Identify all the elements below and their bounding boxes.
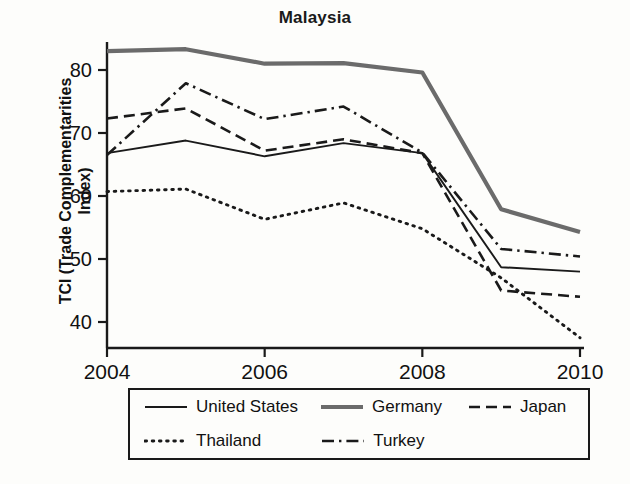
legend-item[interactable]: Thailand <box>144 431 261 451</box>
legend-swatch <box>144 400 188 414</box>
legend-row: United StatesGermanyJapan <box>130 390 588 424</box>
x-tick-label: 2006 <box>241 360 288 383</box>
axis-tick-labels: 40506070802004200620082010 <box>70 59 604 383</box>
legend-swatch <box>468 400 512 414</box>
chart-legend: United StatesGermanyJapan ThailandTurkey <box>128 388 590 460</box>
legend-item-label: United States <box>196 397 298 417</box>
legend-item-label: Germany <box>372 397 442 417</box>
axis-ticks <box>98 70 580 357</box>
legend-item[interactable]: Japan <box>468 397 566 417</box>
data-series <box>107 49 580 338</box>
legend-item[interactable]: Germany <box>320 397 442 417</box>
axes <box>107 42 584 348</box>
legend-swatch <box>320 400 364 414</box>
series-line <box>107 141 580 272</box>
y-tick-label: 60 <box>70 185 92 207</box>
y-tick-label: 70 <box>70 122 92 144</box>
chart-figure: Malaysia TCI (Trade Complementarities In… <box>0 0 630 484</box>
legend-item-label: Japan <box>520 397 566 417</box>
legend-item[interactable]: Turkey <box>321 431 424 451</box>
y-tick-label: 40 <box>70 311 92 333</box>
x-tick-label: 2004 <box>84 360 131 383</box>
x-tick-label: 2008 <box>399 360 446 383</box>
legend-item-label: Thailand <box>196 431 261 451</box>
y-tick-label: 50 <box>70 248 92 270</box>
legend-item[interactable]: United States <box>144 397 298 417</box>
y-tick-label: 80 <box>70 59 92 81</box>
legend-swatch <box>144 434 188 448</box>
legend-swatch <box>321 434 365 448</box>
legend-row: ThailandTurkey <box>130 424 588 458</box>
x-tick-label: 2010 <box>557 360 604 383</box>
legend-item-label: Turkey <box>373 431 424 451</box>
